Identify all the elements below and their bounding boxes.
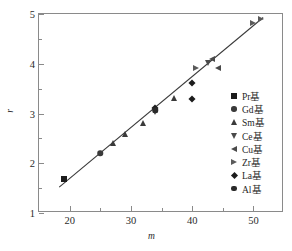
legend-item-label: Al基 xyxy=(242,182,262,196)
triangle-right-marker-icon xyxy=(193,65,199,71)
y-tick-major xyxy=(39,14,44,15)
x-tick-label: 50 xyxy=(248,215,259,226)
legend-item-Pr基[interactable]: Pr基 xyxy=(228,89,280,102)
legend-marker-slot xyxy=(228,129,240,142)
legend-marker-slot xyxy=(228,182,240,195)
square-marker-icon xyxy=(231,93,237,99)
y-tick-minor xyxy=(39,89,42,90)
x-tick-label: 40 xyxy=(187,215,198,226)
legend-marker-slot xyxy=(228,102,240,115)
legend-item-Al基[interactable]: Al基 xyxy=(228,182,280,195)
y-tick-minor xyxy=(39,138,42,139)
y-tick-label: 1 xyxy=(30,208,35,219)
legend-item-Zr基[interactable]: Zr基 xyxy=(228,155,280,168)
triangle-up-marker-icon xyxy=(122,131,128,137)
triangle-up-marker-icon xyxy=(110,140,116,146)
triangle-up-marker-icon xyxy=(140,120,146,126)
y-tick-minor xyxy=(39,39,42,40)
legend-marker-slot xyxy=(228,142,240,155)
triangle-right-marker-icon xyxy=(250,20,256,26)
y-tick-label: 2 xyxy=(30,158,35,169)
hexagon-marker-icon xyxy=(231,186,237,192)
triangle-left-marker-icon xyxy=(231,146,237,152)
chart-legend: Pr基Gd基Sm基Ce基Cu基Zr基La基Al基 xyxy=(228,89,280,195)
legend-item-Cu基[interactable]: Cu基 xyxy=(228,142,280,155)
x-tick-label: 20 xyxy=(64,215,75,226)
triangle-down-marker-icon xyxy=(231,133,237,139)
legend-item-Ce基[interactable]: Ce基 xyxy=(228,129,280,142)
triangle-up-marker-icon xyxy=(231,119,237,125)
triangle-up-marker-icon xyxy=(171,95,177,101)
y-tick-major xyxy=(39,213,44,214)
legend-item-label: Pr基 xyxy=(242,89,260,103)
x-tick-minor xyxy=(223,208,224,211)
x-tick-major xyxy=(253,206,254,211)
y-tick-label: 4 xyxy=(30,58,35,69)
y-tick-label: 3 xyxy=(30,108,35,119)
legend-item-La基[interactable]: La基 xyxy=(228,169,280,182)
legend-item-Gd基[interactable]: Gd基 xyxy=(228,102,280,115)
legend-item-label: Sm基 xyxy=(242,115,265,129)
triangle-left-marker-icon xyxy=(215,65,221,71)
legend-item-label: Gd基 xyxy=(242,102,264,116)
legend-marker-slot xyxy=(228,116,240,129)
legend-marker-slot xyxy=(228,155,240,168)
y-tick-minor xyxy=(39,188,42,189)
y-tick-major xyxy=(39,64,44,65)
y-tick-major xyxy=(39,114,44,115)
x-axis-title: m xyxy=(148,231,155,241)
circle-marker-icon xyxy=(98,151,104,157)
diamond-marker-icon xyxy=(230,172,237,179)
x-tick-minor xyxy=(100,208,101,211)
x-tick-major xyxy=(192,206,193,211)
legend-marker-slot xyxy=(228,89,240,102)
legend-item-label: Zr基 xyxy=(242,155,261,169)
triangle-right-marker-icon xyxy=(258,16,264,22)
legend-item-label: Cu基 xyxy=(242,142,263,156)
y-tick-major xyxy=(39,163,44,164)
legend-item-label: Ce基 xyxy=(242,129,263,143)
x-tick-major xyxy=(70,206,71,211)
x-tick-major xyxy=(131,206,132,211)
x-tick-minor xyxy=(162,208,163,211)
triangle-left-marker-icon xyxy=(209,56,215,62)
legend-marker-slot xyxy=(228,169,240,182)
y-axis-title: r xyxy=(5,109,15,113)
hexagon-marker-icon xyxy=(153,107,159,113)
legend-item-Sm基[interactable]: Sm基 xyxy=(228,116,280,129)
x-tick-label: 30 xyxy=(126,215,137,226)
circle-marker-icon xyxy=(231,106,237,112)
triangle-right-marker-icon xyxy=(231,159,237,165)
y-tick-label: 5 xyxy=(30,9,35,20)
legend-item-label: La基 xyxy=(242,168,262,182)
square-marker-icon xyxy=(61,176,67,182)
scatter-chart-figure: r m 1234520304050 Pr基Gd基Sm基Ce基Cu基Zr基La基A… xyxy=(0,0,292,251)
